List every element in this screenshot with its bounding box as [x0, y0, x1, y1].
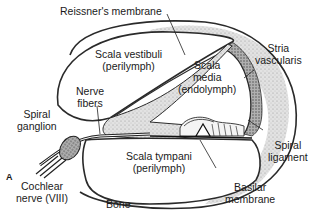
label-line: ganglion	[17, 120, 57, 132]
label-line: Spiral	[268, 139, 308, 151]
label-line: Basilar	[225, 181, 275, 193]
label-line: membrane	[225, 193, 275, 205]
label-line: Spiral	[17, 108, 57, 120]
label-line: Nerve	[76, 85, 104, 97]
label-bone: Bone	[106, 198, 131, 210]
label-line: media	[178, 71, 236, 83]
label-line: Cochlear	[16, 180, 68, 192]
label-spiral-ligament: Spiral ligament	[268, 139, 308, 163]
label-line: Scala vestibuli	[95, 48, 162, 60]
label-line: Scala tympani	[126, 150, 192, 162]
label-line: nerve (VIII)	[16, 192, 68, 204]
label-line: ligament	[268, 151, 308, 163]
label-reissners-membrane: Reissner's membrane	[60, 5, 162, 17]
label-line: Scala	[178, 59, 236, 71]
label-scala-tympani: Scala tympani (perilymph)	[126, 150, 192, 174]
label-line: fibers	[76, 97, 104, 109]
label-line: (perilymph)	[126, 162, 192, 174]
panel-letter: A	[6, 171, 13, 183]
cochlear-nerve-trunk	[36, 156, 66, 178]
label-cochlear-nerve: Cochlear nerve (VIII)	[16, 180, 68, 204]
label-line: (endolymph)	[178, 83, 236, 95]
label-basilar-membrane: Basilar membrane	[225, 181, 275, 205]
label-scala-vestibuli: Scala vestibuli (perilymph)	[95, 48, 162, 72]
label-line: (perilymph)	[95, 60, 162, 72]
label-scala-media: Scala media (endolymph)	[178, 59, 236, 95]
label-line: Stria	[255, 42, 302, 54]
spiral-ganglion-body	[55, 132, 85, 164]
label-nerve-fibers: Nerve fibers	[76, 85, 104, 109]
label-line: vascularis	[255, 54, 302, 66]
label-stria-vascularis: Stria vascularis	[255, 42, 302, 66]
label-spiral-ganglion: Spiral ganglion	[17, 108, 57, 132]
